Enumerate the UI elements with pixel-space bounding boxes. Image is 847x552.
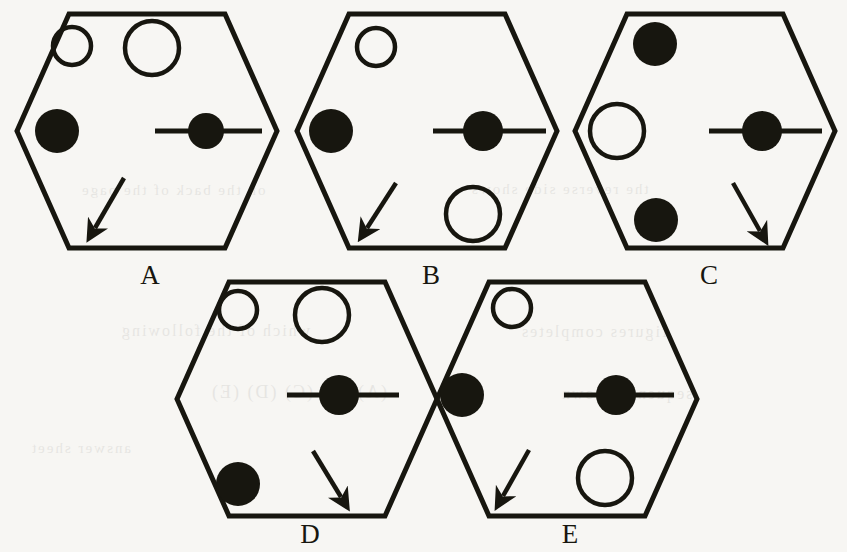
filled-circle-on-line: [596, 375, 636, 415]
arrow-down-left: [367, 183, 396, 228]
small-open-circle: [53, 27, 91, 65]
large-open-circle: [295, 288, 349, 342]
figure-e[interactable]: [437, 282, 697, 516]
large-open-circle-left: [590, 104, 644, 158]
filled-circle-on-line: [742, 111, 782, 151]
filled-circle-bottom-left: [634, 198, 678, 242]
filled-circle-on-line: [319, 375, 359, 415]
figure-label-e: E: [550, 521, 590, 548]
figure-d[interactable]: [177, 282, 437, 516]
hexagon-outline: [177, 282, 437, 516]
figure-page: on the back of the pagethe reverse side …: [0, 0, 847, 552]
filled-circle-top-left: [633, 22, 677, 66]
small-open-circle: [357, 28, 395, 66]
figure-c[interactable]: [575, 14, 835, 248]
large-open-circle: [446, 187, 500, 241]
large-open-circle: [125, 21, 179, 75]
figure-label-a: A: [130, 262, 170, 289]
arrow-down-left: [95, 178, 124, 228]
figure-label-d: D: [290, 521, 330, 548]
filled-circle-on-line: [463, 111, 503, 151]
arrow-down-right: [313, 451, 341, 497]
filled-circle-on-line: [188, 113, 224, 149]
figure-a[interactable]: [17, 14, 277, 248]
arrow-down-left: [503, 450, 529, 496]
small-open-circle: [493, 289, 531, 327]
filled-circle-left: [440, 373, 484, 417]
arrow-down-right: [733, 183, 760, 231]
filled-circle-left: [35, 109, 79, 153]
large-open-circle: [578, 451, 632, 505]
figure-label-c: C: [689, 262, 729, 289]
filled-circle-bottom-left: [216, 462, 260, 506]
filled-circle-left: [309, 109, 353, 153]
figure-label-b: B: [411, 262, 451, 289]
figure-b[interactable]: [297, 14, 557, 248]
small-open-circle: [219, 291, 257, 329]
